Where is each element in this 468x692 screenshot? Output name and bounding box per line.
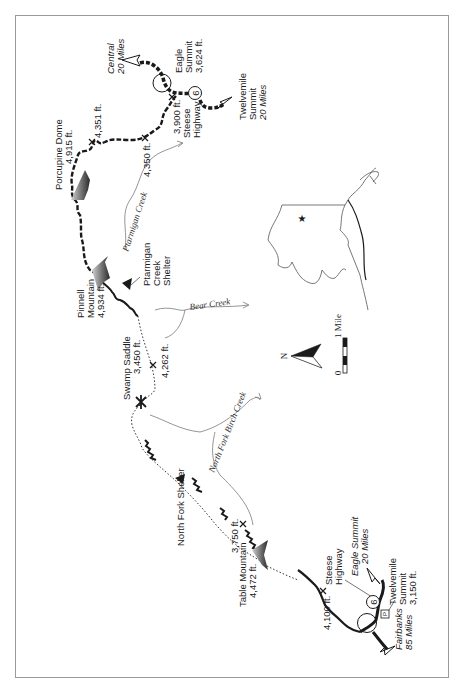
svg-text:20 Miles: 20 Miles bbox=[257, 84, 268, 121]
scale-end-label: 1 Mile bbox=[333, 314, 343, 338]
arrow-to-eagle-summit bbox=[367, 568, 380, 584]
label-elev-4262: 4,262 ft. bbox=[159, 344, 170, 378]
trail-wiggle-3 bbox=[220, 508, 227, 520]
label-bear-creek: Bear Creek bbox=[189, 296, 232, 312]
svg-text:3,450 ft.: 3,450 ft. bbox=[131, 340, 142, 374]
north-arrow: N bbox=[279, 344, 322, 368]
trail-wiggle-1 bbox=[145, 440, 156, 460]
svg-text:4,934 ft.: 4,934 ft. bbox=[95, 284, 106, 318]
x-marker-4100 bbox=[320, 588, 326, 594]
label-fairbanks: Fairbanks 85 Miles bbox=[393, 608, 414, 650]
label-north-fork-shelter: North Fork Shelter bbox=[175, 468, 186, 546]
x-marker-4262 bbox=[150, 362, 156, 368]
fairbanks-star-icon: ★ bbox=[298, 213, 307, 224]
arrow-to-twelvemile-north bbox=[218, 97, 232, 108]
label-highway-north: Steese Highway bbox=[181, 101, 202, 138]
ptarmigan-shelter-leader bbox=[131, 277, 140, 285]
route-6-shield-north: 6 bbox=[189, 87, 202, 100]
label-ptarmigan-shelter: Ptarmigan Creek Shelter bbox=[141, 243, 172, 286]
highway-south-road-2 bbox=[373, 632, 388, 650]
label-highway-south: Steese Highway bbox=[323, 548, 344, 585]
svg-text:3,150 ft.: 3,150 ft. bbox=[407, 571, 418, 605]
svg-text:3,624 ft.: 3,624 ft. bbox=[193, 39, 204, 73]
north-arrow-label: N bbox=[279, 352, 289, 359]
label-central: Central 20 Miles bbox=[105, 38, 126, 75]
scale-start-label: 0 bbox=[333, 370, 343, 375]
label-pinnell-mountain: Pinnell Mountain 4,934 ft. bbox=[75, 279, 106, 318]
label-swamp-saddle: Swamp Saddle 3,450 ft. bbox=[121, 336, 142, 400]
aleutian-chain bbox=[360, 172, 379, 184]
trail-wiggle-2 bbox=[192, 478, 202, 492]
svg-text:Highway: Highway bbox=[333, 548, 344, 585]
scale-bar: 0 1 Mile bbox=[333, 314, 347, 375]
eagle-summit-circle-north bbox=[153, 74, 171, 92]
svg-text:Highway: Highway bbox=[191, 101, 202, 138]
label-elev-4100: 4,100 ft. bbox=[321, 596, 332, 630]
route-6-shield-south: 6 bbox=[367, 596, 380, 609]
svg-text:20 Miles: 20 Miles bbox=[115, 38, 126, 75]
svg-text:20 Miles: 20 Miles bbox=[359, 528, 370, 565]
highway-leader-south bbox=[345, 580, 372, 597]
alaska-inset-map bbox=[268, 168, 379, 310]
route-6-label-south: 6 bbox=[368, 599, 379, 604]
map-frame bbox=[16, 16, 449, 678]
label-north-fork-birch-creek: North Fork Birch Creek bbox=[206, 389, 248, 474]
alaska-outline bbox=[268, 168, 376, 310]
label-elev-4351: 4,351 ft. bbox=[92, 104, 103, 138]
x-marker-swamp-saddle bbox=[136, 395, 146, 409]
parking-sign: P bbox=[381, 610, 389, 618]
svg-text:Shelter: Shelter bbox=[161, 256, 172, 286]
route-6-label: 6 bbox=[190, 90, 201, 95]
svg-text:4,915 ft.: 4,915 ft. bbox=[63, 130, 74, 164]
north-fork-birch-creek-line bbox=[150, 393, 261, 525]
label-twelvemile-north: Twelvemile Summit 20 Miles bbox=[237, 73, 268, 121]
svg-text:4,472 ft.: 4,472 ft. bbox=[247, 564, 258, 598]
trail-map: 6 6 P ★ bbox=[0, 0, 468, 692]
label-twelvemile-south: Twelvemile Summit 3,150 ft. bbox=[387, 558, 418, 605]
parking-label: P bbox=[382, 612, 388, 616]
x-marker-3750 bbox=[240, 521, 246, 527]
svg-text:85 Miles: 85 Miles bbox=[403, 614, 414, 650]
porcupine-dome-icon bbox=[71, 170, 90, 200]
label-elev-4350: 4,350 ft. bbox=[141, 143, 152, 177]
label-eagle-summit-south: Eagle Summit 20 Miles bbox=[349, 517, 370, 576]
ptarmigan-creek-shelter-icon bbox=[122, 278, 132, 290]
label-eagle-summit-north: Eagle Summit 3,624 ft. bbox=[173, 39, 204, 73]
